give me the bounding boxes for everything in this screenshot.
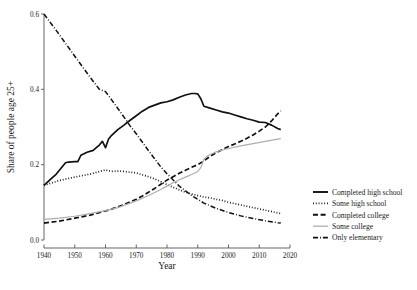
legend-label: Completed college (332, 211, 390, 220)
series-line (44, 139, 281, 220)
legend-label: Some college (332, 222, 374, 231)
x-tick-label: 1950 (68, 252, 83, 260)
legend-label: Only elementary (332, 233, 383, 242)
x-axis-ticks: 194019501960197019801990200020102020 (37, 245, 298, 261)
series-line (44, 93, 281, 185)
x-tick-label: 2010 (252, 252, 267, 260)
figure-container: 0.00.20.40.6 194019501960197019801990200… (0, 0, 417, 290)
line-chart: 0.00.20.40.6 194019501960197019801990200… (0, 0, 417, 290)
x-tick-label: 2020 (283, 252, 298, 260)
legend: Completed high schoolSome high schoolCom… (313, 188, 402, 243)
x-axis-title: Year (158, 261, 176, 271)
x-tick-label: 1940 (37, 252, 52, 260)
x-tick-label: 1970 (129, 252, 144, 260)
y-tick-label: 0.0 (30, 237, 39, 245)
y-axis-ticks: 0.00.20.40.6 (30, 11, 44, 245)
caption-cutoff (8, 284, 308, 290)
y-tick-label: 0.2 (30, 161, 39, 169)
y-tick-label: 0.6 (30, 11, 39, 19)
x-tick-label: 1990 (191, 252, 206, 260)
series-line (44, 170, 281, 214)
legend-label: Completed high school (332, 188, 402, 197)
series-line (44, 111, 281, 223)
data-series-group (44, 14, 281, 223)
x-tick-label: 2000 (221, 252, 236, 260)
x-tick-label: 1960 (98, 252, 113, 260)
legend-label: Some high school (332, 199, 386, 208)
y-tick-label: 0.4 (30, 86, 39, 94)
y-axis-title: Share of people age 25+ (6, 81, 16, 173)
x-tick-label: 1980 (160, 252, 175, 260)
